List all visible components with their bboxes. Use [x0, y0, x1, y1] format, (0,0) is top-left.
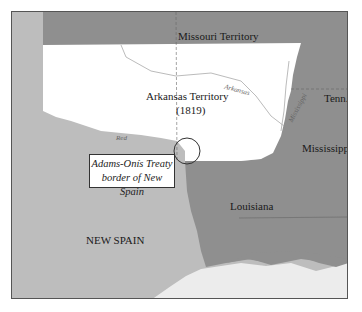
treaty-callout: Adams-Onís Treaty border of New Spain: [89, 154, 175, 188]
callout-line-2: border of New Spain: [90, 171, 174, 199]
red-river-label: Red: [116, 134, 127, 142]
new-spain-label: NEW SPAIN: [86, 234, 144, 246]
louisiana-label: Louisiana: [230, 200, 273, 212]
missouri-territory-label: Missouri Territory: [178, 30, 259, 42]
arkansas-territory-label: Arkansas Territory: [146, 90, 228, 102]
tennessee-label: Tenn.: [324, 92, 348, 104]
mississippi-label: Mississippi: [302, 142, 348, 154]
map-canvas: [12, 12, 348, 299]
callout-line-1: Adams-Onís Treaty: [90, 157, 174, 171]
arkansas-territory-year: (1819): [176, 104, 205, 116]
map-frame: Missouri Territory Arkansas Territory (1…: [11, 11, 348, 299]
